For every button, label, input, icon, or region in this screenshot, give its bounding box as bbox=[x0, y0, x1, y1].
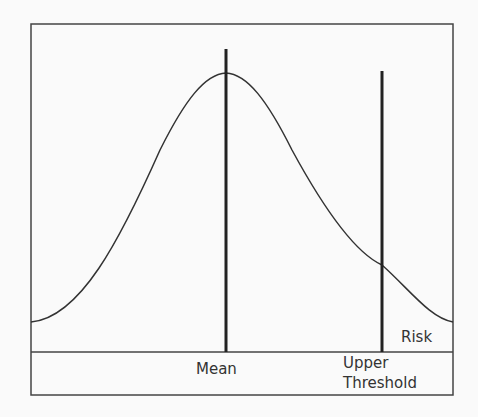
distribution-diagram bbox=[0, 0, 478, 417]
mean-label: Mean bbox=[196, 360, 237, 378]
upper-threshold-label-line1: Upper bbox=[343, 354, 388, 372]
normal-distribution-curve bbox=[31, 73, 453, 322]
upper-threshold-label-line2: Threshold bbox=[343, 374, 417, 392]
frame bbox=[31, 24, 453, 395]
risk-label: Risk bbox=[401, 328, 432, 346]
